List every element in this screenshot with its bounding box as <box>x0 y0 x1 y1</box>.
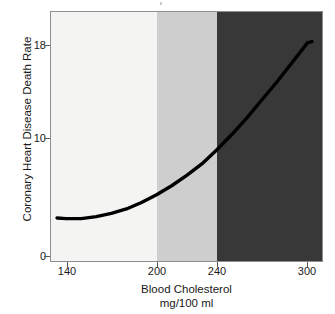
x-tick-label-200: 200 <box>137 266 177 277</box>
y-tick-label-10: 10 <box>6 133 46 144</box>
scan-artifact-speck <box>160 2 162 5</box>
x-axis-title: Blood Cholesterol <box>50 282 323 296</box>
x-axis-units: mg/100 ml <box>50 296 323 310</box>
chart-screenshot: Coronary Heart Disease Death Rate 18 10 … <box>0 0 335 314</box>
x-axis-title-group: Blood Cholesterol mg/100 ml <box>50 282 323 310</box>
x-tick-label-300: 300 <box>287 266 327 277</box>
y-tick-label-18: 18 <box>6 40 46 51</box>
y-tick-label-0: 0 <box>6 251 46 262</box>
x-tick-label-140: 140 <box>47 266 87 277</box>
chd-death-rate-curve <box>51 12 323 262</box>
x-tick-label-240: 240 <box>197 266 237 277</box>
plot-area <box>50 11 323 262</box>
